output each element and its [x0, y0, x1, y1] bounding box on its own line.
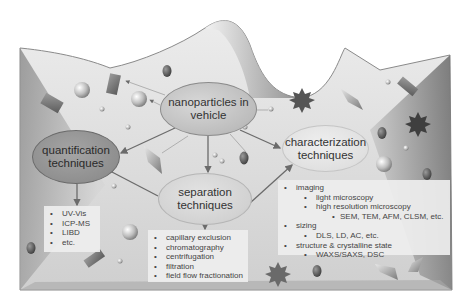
list-item: light microscopy — [282, 193, 446, 203]
node-label-line1: nanoparticles in — [168, 96, 249, 109]
quantification-methods-list: UV-Vis ICP-MS LIBD etc. — [44, 206, 100, 252]
list-item: LIBD — [48, 228, 96, 238]
ellipsoid-icon — [313, 265, 322, 277]
sphere-icon — [122, 224, 138, 240]
node-label-line1: separation — [177, 186, 233, 199]
node-characterization-techniques: characterization techniques — [282, 125, 369, 172]
node-label-line2: vehicle — [168, 109, 249, 122]
node-label-line1: quantification — [42, 144, 110, 157]
list-item: WAXS/SAXS, DSC — [282, 250, 446, 260]
small-dot-icon — [404, 146, 409, 151]
ellipsoid-icon — [27, 242, 36, 254]
list-item: filtration — [152, 262, 244, 272]
sphere-icon — [74, 82, 90, 98]
node-separation-techniques: separation techniques — [158, 173, 252, 225]
ellipsoid-icon — [423, 168, 432, 180]
list-item: imaging — [282, 183, 446, 193]
small-dot-icon — [112, 184, 117, 189]
node-label-line2: techniques — [285, 149, 366, 162]
small-dot-icon — [220, 159, 225, 164]
small-dot-icon — [386, 80, 391, 85]
node-label-line2: techniques — [42, 157, 110, 170]
list-item: chromatography — [152, 243, 244, 253]
list-item: capillary exclusion — [152, 233, 244, 243]
list-item: high resolution microscopy — [282, 202, 446, 212]
ellipsoid-icon — [163, 65, 172, 77]
list-item: DLS, LD, AC, etc. — [282, 231, 446, 241]
small-dot-icon — [100, 107, 105, 112]
list-item: structure & crystalline state — [282, 241, 446, 251]
ellipsoid-icon — [378, 127, 387, 139]
node-label-line2: techniques — [177, 199, 233, 212]
list-item: etc. — [48, 238, 96, 248]
node-label-line1: characterization — [285, 136, 366, 149]
node-quantification-techniques: quantification techniques — [32, 130, 120, 184]
sphere-icon — [131, 91, 147, 107]
small-dot-icon — [126, 125, 131, 130]
list-item: centrifugation — [152, 252, 244, 262]
diagram-canvas: nanoparticles in vehicle quantification … — [0, 0, 471, 307]
list-item: UV-Vis — [48, 209, 96, 219]
characterization-methods-list: imaging light microscopy high resolution… — [278, 180, 450, 255]
list-item: ICP-MS — [48, 219, 96, 229]
ellipsoid-icon — [240, 152, 249, 165]
small-dot-icon — [213, 153, 218, 158]
list-item: field flow fractionation — [152, 271, 244, 281]
node-nanoparticles-in-vehicle: nanoparticles in vehicle — [160, 82, 257, 136]
list-item: SEM, TEM, AFM, CLSM, etc. — [282, 212, 446, 222]
separation-methods-list: capillary exclusion chromatography centr… — [148, 230, 248, 282]
list-item: sizing — [282, 221, 446, 231]
small-dot-icon — [269, 107, 274, 112]
small-dot-icon — [118, 259, 123, 264]
sphere-icon — [376, 156, 392, 172]
